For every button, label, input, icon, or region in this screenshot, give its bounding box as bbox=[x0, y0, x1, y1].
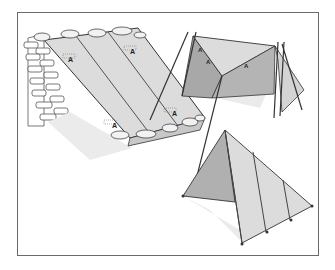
pyramid-tent bbox=[182, 130, 314, 246]
svg-text:A: A bbox=[206, 59, 211, 65]
svg-text:A: A bbox=[244, 63, 249, 69]
svg-text:A: A bbox=[130, 48, 135, 55]
shelter-illustration: A A A A A A bbox=[0, 0, 335, 270]
svg-text:A: A bbox=[198, 47, 203, 53]
lean-to-shelter: A A A A bbox=[24, 27, 205, 160]
svg-text:A: A bbox=[172, 110, 177, 117]
svg-text:A: A bbox=[68, 56, 73, 63]
svg-text:A: A bbox=[112, 122, 117, 129]
